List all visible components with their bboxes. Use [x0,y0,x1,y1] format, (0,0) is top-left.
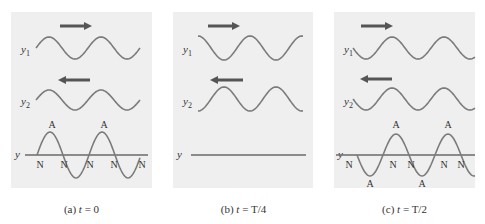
caption-c-prefix: (c) [382,203,397,215]
wave-y2-b [198,87,303,111]
antinode-label-bottom-c-0: A [366,178,374,189]
node-label-a-1: N [60,159,67,170]
label-y2-a: y2 [20,95,30,110]
label-y2-b: y2 [182,95,192,110]
arrow-left-icon [360,75,368,83]
label-y1-c: y1 [343,43,353,58]
label-y2-c: y2 [343,95,353,110]
label-y-b: y [176,148,182,160]
arrow-right-icon [84,22,92,30]
node-label-a-2: N [86,159,93,170]
wave-y1-a [36,37,140,59]
node-label-c-0: N [345,159,352,170]
caption-b: (b) t = T/4 [173,203,314,215]
node-label-c-2: N [407,159,414,170]
standing-wave-diagram: y1y2yNNNNNAAy1y2yy1y2yNNNNNAAAA [0,0,485,224]
node-label-a-0: N [36,159,43,170]
node-label-a-3: N [110,159,117,170]
antinode-label-top-c-1: A [444,119,452,130]
arrow-right-icon [385,22,393,30]
caption-a: (a) t = 0 [11,203,152,215]
node-label-c-3: N [440,159,447,170]
node-label-a-4: N [138,159,145,170]
caption-c: (c) t = T/2 [334,203,475,215]
arrow-left-icon [58,76,66,84]
node-label-c-1: N [389,159,396,170]
antinode-label-bottom-c-1: A [418,178,426,189]
caption-b-rest: = T/4 [239,203,266,215]
antinode-label-top-a-0: A [48,119,56,130]
caption-c-rest: = T/2 [400,203,427,215]
wave-y1-c [353,37,475,59]
wave-y2-a [36,90,140,110]
caption-a-prefix: (a) [64,203,79,215]
caption-a-rest: = 0 [82,203,99,215]
label-y-a: y [14,148,20,160]
wave-y1-b [198,36,303,60]
label-y1-a: y1 [20,43,30,58]
node-label-c-4: N [457,159,464,170]
caption-b-prefix: (b) [221,203,237,215]
label-y1-b: y1 [182,43,192,58]
arrow-right-icon [232,22,240,30]
antinode-label-top-c-0: A [392,119,400,130]
arrow-left-icon [210,76,218,84]
antinode-label-top-a-1: A [100,119,108,130]
wave-y2-c [353,88,475,110]
label-y-c: y [337,148,343,160]
